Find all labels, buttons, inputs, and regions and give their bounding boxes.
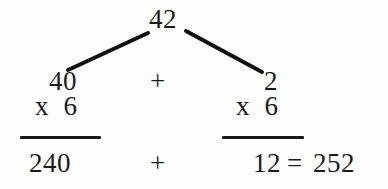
- plus-operator-bottom: +: [150, 150, 165, 177]
- right-product-rule: [222, 136, 304, 139]
- total-value: 252: [313, 150, 355, 177]
- right-multiply-row: x 6: [236, 93, 279, 120]
- left-product-rule: [20, 136, 101, 139]
- right-product-value: 12: [253, 150, 281, 177]
- left-multiply-row: x 6: [35, 93, 78, 120]
- branch-line-left: [68, 33, 148, 70]
- math-diagram-canvas: 42 40 x 6 240 + + 2 x 6 12 = 252: [0, 0, 388, 189]
- branch-line-right: [186, 31, 262, 72]
- left-product-value: 240: [29, 150, 71, 177]
- plus-operator-top: +: [150, 68, 165, 95]
- equals-operator: =: [287, 150, 302, 177]
- root-node-value: 42: [149, 6, 177, 33]
